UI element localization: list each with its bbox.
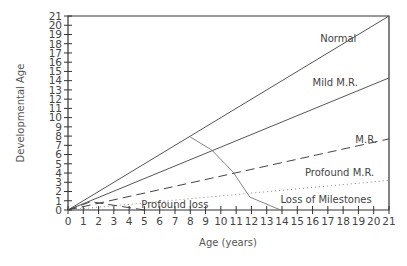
x-tick-label: 9 xyxy=(202,215,209,227)
x-tick-label: 8 xyxy=(187,215,194,227)
x-axis-title: Age (years) xyxy=(199,237,257,248)
x-tick-label: 10 xyxy=(214,215,227,227)
series-label: Loss of Milestones xyxy=(280,194,371,205)
y-axis-title: Developmental Age xyxy=(15,64,26,163)
x-tick-label: 7 xyxy=(172,215,179,227)
x-tick-label: 21 xyxy=(382,215,395,227)
series-label: M.R. xyxy=(355,134,377,145)
x-tick-label: 0 xyxy=(65,215,72,227)
y-tick-label: 21 xyxy=(49,10,62,22)
series-label: Profound M.R. xyxy=(305,167,374,178)
series-line xyxy=(68,78,389,210)
chart: 0123456789101112131415161718192021 01234… xyxy=(0,0,407,266)
series-label: Normal xyxy=(320,33,356,44)
x-tick-label: 11 xyxy=(229,215,242,227)
x-tick-label: 20 xyxy=(367,215,380,227)
x-tick-label: 15 xyxy=(291,215,304,227)
x-axis: 0123456789101112131415161718192021 xyxy=(65,206,396,227)
series-label: Mild M.R. xyxy=(313,77,358,88)
x-tick-label: 5 xyxy=(141,215,148,227)
x-tick-label: 13 xyxy=(260,215,273,227)
x-tick-label: 18 xyxy=(336,215,349,227)
series-line xyxy=(68,16,389,210)
x-tick-label: 19 xyxy=(352,215,365,227)
x-tick-label: 4 xyxy=(126,215,133,227)
x-tick-label: 17 xyxy=(321,215,334,227)
series-labels: NormalMild M.R.M.R.Profound M.R.Loss of … xyxy=(141,33,377,210)
series-label: Profound loss xyxy=(141,199,208,210)
x-tick-label: 6 xyxy=(156,215,163,227)
x-tick-label: 3 xyxy=(111,215,118,227)
x-tick-label: 12 xyxy=(245,215,258,227)
x-tick-label: 2 xyxy=(95,215,102,227)
x-tick-label: 14 xyxy=(275,215,289,227)
x-tick-label: 1 xyxy=(80,215,87,227)
x-tick-label: 16 xyxy=(306,215,320,227)
series-lines xyxy=(68,16,389,210)
